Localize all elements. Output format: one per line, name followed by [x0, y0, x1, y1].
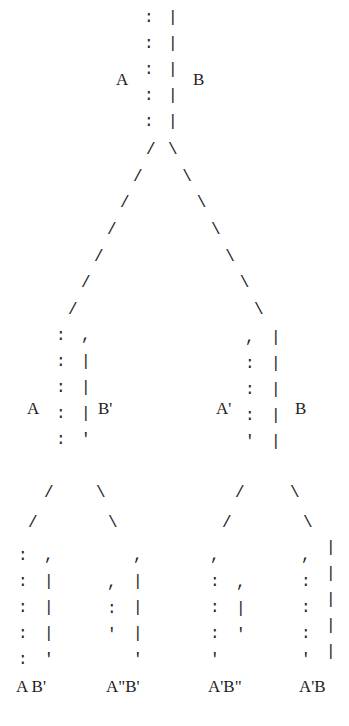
l1-left-left-column: :	[56, 432, 66, 448]
l1-left-left-column: :	[56, 380, 66, 396]
l1-right-right-column: |	[271, 408, 281, 424]
l1-left-right-column: |	[81, 380, 91, 396]
leaf2-right-column: |	[133, 600, 143, 616]
branch-l1l-left: /	[28, 515, 38, 531]
l1-right-left-column: ,	[245, 330, 255, 346]
root-right-column: |	[168, 36, 178, 52]
leaf1-left-column: :	[18, 600, 28, 616]
leaf4-left-column: ,	[301, 548, 311, 564]
l1-left-right-column: |	[81, 354, 91, 370]
branch-l1l-right: \	[96, 485, 106, 501]
branch-root-left: /	[81, 275, 91, 291]
branch-l1l-left: /	[44, 485, 54, 501]
leaf4-right-column: |	[326, 540, 336, 556]
branch-root-left: /	[68, 302, 78, 318]
branch-l1r-left: /	[222, 515, 232, 531]
branch-root-right: \	[225, 249, 235, 265]
branch-root-right: \	[211, 222, 221, 238]
branch-root-left: /	[120, 195, 130, 211]
branch-root-right: \	[182, 169, 192, 185]
leaf3-right-column: '	[236, 627, 246, 643]
l1-right-right-column: |	[271, 434, 281, 450]
root-left-column: :	[144, 88, 154, 104]
root-right-column: |	[168, 10, 178, 26]
l1-right-label-a: A'	[216, 400, 231, 417]
branch-root-left: /	[133, 169, 143, 185]
root-right-column: |	[168, 62, 178, 78]
leaf1-label: A B'	[16, 678, 46, 695]
l1-left-right-column: ,	[81, 328, 91, 344]
leaf4-right-column: |	[326, 644, 336, 660]
leaf3-left-column: :	[210, 600, 220, 616]
l1-left-right-column: |	[81, 406, 91, 422]
leaf3-right-column: |	[236, 601, 246, 617]
leaf4-left-column: :	[301, 626, 311, 642]
leaf4-left-column: :	[301, 600, 311, 616]
branch-root-right: \	[197, 195, 207, 211]
leaf3-left-column: '	[210, 652, 220, 668]
branch-l1l-right: \	[108, 515, 118, 531]
root-left-column: :	[144, 36, 154, 52]
l1-right-right-column: |	[271, 330, 281, 346]
root-left-column: :	[144, 10, 154, 26]
l1-left-label-b: B'	[98, 400, 112, 417]
leaf2-right-column: |	[133, 626, 143, 642]
leaf4-right-column: |	[326, 566, 336, 582]
branch-l1r-left: /	[235, 485, 245, 501]
l1-right-right-column: |	[271, 356, 281, 372]
leaf2-right-column: |	[133, 574, 143, 590]
branch-root-left: /	[94, 249, 104, 265]
root-label-a: A	[116, 71, 128, 88]
root-right-column: |	[168, 114, 178, 130]
leaf4-label: A'B	[299, 678, 326, 695]
branch-root-right: \	[240, 275, 250, 291]
l1-right-left-column: :	[245, 356, 255, 372]
l1-right-left-column: '	[245, 434, 255, 450]
l1-left-right-column: '	[81, 432, 91, 448]
leaf1-left-column: :	[18, 652, 28, 668]
root-right-column: |	[168, 88, 178, 104]
root-left-column: :	[144, 62, 154, 78]
branch-l1r-right: \	[303, 515, 313, 531]
l1-left-left-column: :	[56, 406, 66, 422]
l1-right-label-b: B	[295, 400, 306, 417]
leaf1-right-column: |	[44, 574, 54, 590]
leaf2-right-column: ,	[133, 548, 143, 564]
leaf3-left-column: :	[210, 626, 220, 642]
l1-left-left-column: :	[56, 328, 66, 344]
leaf1-right-column: |	[44, 626, 54, 642]
leaf1-right-column: |	[44, 600, 54, 616]
branch-l1r-right: \	[290, 485, 300, 501]
leaf2-right-column: '	[133, 652, 143, 668]
branch-root-left: /	[107, 222, 117, 238]
leaf1-right-column: ,	[44, 548, 54, 564]
l1-right-left-column: :	[245, 382, 255, 398]
leaf4-left-column: '	[301, 652, 311, 668]
leaf1-left-column: :	[18, 626, 28, 642]
leaf3-right-column: ,	[236, 575, 246, 591]
leaf2-left-column: '	[107, 627, 117, 643]
l1-left-left-column: :	[56, 354, 66, 370]
leaf3-left-column: ,	[210, 548, 220, 564]
leaf4-right-column: |	[326, 592, 336, 608]
branch-root-right: \	[254, 302, 264, 318]
root-left-column: :	[144, 114, 154, 130]
leaf4-left-column: :	[301, 574, 311, 590]
leaf3-left-column: :	[210, 574, 220, 590]
leaf1-right-column: '	[44, 652, 54, 668]
leaf2-left-column: ,	[107, 575, 117, 591]
branch-root-right: \	[168, 142, 178, 158]
l1-right-left-column: :	[245, 408, 255, 424]
leaf1-left-column: :	[18, 574, 28, 590]
leaf1-left-column: :	[18, 548, 28, 564]
leaf2-label: A"B'	[106, 678, 140, 695]
leaf3-label: A'B"	[208, 678, 242, 695]
l1-left-label-a: A	[27, 400, 39, 417]
leaf4-right-column: |	[326, 618, 336, 634]
root-label-b: B	[193, 71, 204, 88]
branch-root-left: /	[146, 142, 156, 158]
l1-right-right-column: |	[271, 382, 281, 398]
leaf2-left-column: :	[107, 601, 117, 617]
